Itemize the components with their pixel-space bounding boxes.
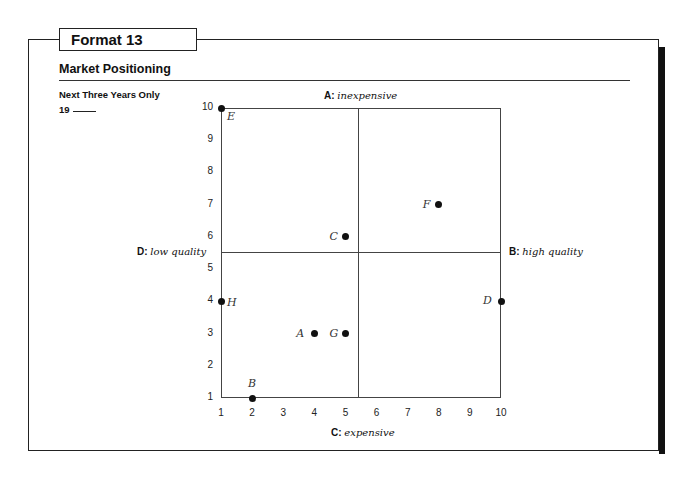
- data-point-label: D: [483, 294, 492, 307]
- y-tick-label: 8: [193, 165, 213, 176]
- y-tick-label: 9: [193, 133, 213, 144]
- data-point-label: F: [423, 198, 431, 211]
- axis-label-left: D: low quality: [137, 246, 206, 257]
- format-title-box: Format 13: [59, 28, 197, 51]
- plot-area: [221, 108, 501, 398]
- section-title: Market Positioning: [59, 62, 171, 76]
- frame-shadow: [659, 47, 665, 454]
- y-tick-label: 4: [193, 294, 213, 305]
- data-point-h: [218, 298, 225, 305]
- year-prefix: 19: [59, 104, 70, 115]
- x-tick-label: 9: [460, 407, 480, 418]
- y-tick-label: 6: [193, 230, 213, 241]
- data-point-d: [498, 298, 505, 305]
- year-blank: [73, 111, 96, 112]
- y-tick-label: 2: [193, 359, 213, 370]
- x-tick-label: 4: [304, 407, 324, 418]
- x-tick-label: 1: [211, 407, 231, 418]
- data-point-e: [218, 105, 225, 112]
- y-tick-label: 1: [193, 391, 213, 402]
- data-point-label: C: [329, 230, 337, 243]
- data-point-g: [342, 330, 349, 337]
- x-tick-label: 10: [491, 407, 511, 418]
- axis-label-right: B: high quality: [509, 246, 583, 257]
- header-rule: [59, 80, 630, 81]
- x-tick-label: 3: [273, 407, 293, 418]
- x-tick-label: 8: [429, 407, 449, 418]
- y-tick-label: 5: [193, 262, 213, 273]
- x-tick-label: 2: [242, 407, 262, 418]
- time-note: Next Three Years Only: [59, 89, 160, 100]
- data-point-a: [311, 330, 318, 337]
- data-point-label: E: [227, 110, 235, 123]
- y-tick-label: 3: [193, 327, 213, 338]
- data-point-label: B: [248, 377, 256, 390]
- data-point-label: A: [296, 327, 304, 340]
- format-title: Format 13: [71, 31, 143, 48]
- data-point-label: H: [227, 296, 237, 309]
- data-point-label: G: [329, 327, 338, 340]
- axis-label-top: A: inexpensive: [324, 90, 397, 101]
- y-tick-label: 7: [193, 198, 213, 209]
- axis-label-bottom: C: expensive: [331, 427, 395, 438]
- x-tick-label: 5: [335, 407, 355, 418]
- x-tick-label: 7: [398, 407, 418, 418]
- y-tick-label: 10: [193, 101, 213, 112]
- horizontal-divider: [221, 252, 501, 253]
- year-field: 19: [59, 104, 96, 115]
- vertical-divider: [358, 108, 359, 398]
- data-point-b: [249, 395, 256, 402]
- x-tick-label: 6: [367, 407, 387, 418]
